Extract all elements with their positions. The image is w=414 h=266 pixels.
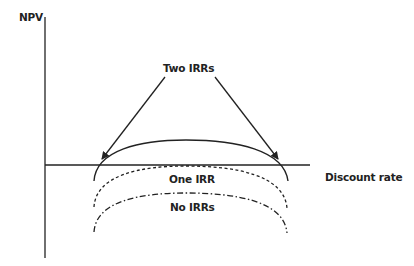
x-axis-label: Discount rate [325, 171, 402, 183]
diagram-canvas [0, 0, 414, 266]
no-irrs-label: No IRRs [170, 201, 215, 213]
y-axis-label: NPV [19, 11, 43, 23]
one-irr-label: One IRR [169, 173, 215, 185]
arrow-left [102, 77, 165, 159]
npv-irr-diagram: NPV Discount rate Two IRRs One IRR No IR… [0, 0, 414, 266]
no-irrs-curve [94, 193, 287, 233]
two-irrs-label: Two IRRs [163, 62, 214, 74]
